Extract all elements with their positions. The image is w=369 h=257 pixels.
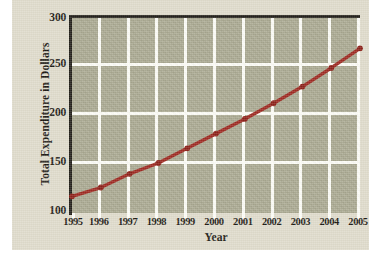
data-point-1999 [184,145,190,151]
series-line-total-expenditure [72,48,360,196]
data-point-2003 [300,84,306,90]
x-axis-title: Year [72,231,360,243]
data-point-2000 [213,131,219,137]
xtick-label-2005: 2005 [341,216,369,227]
data-point-1997 [127,171,133,177]
data-point-2002 [271,100,277,106]
series-markers [69,45,363,199]
chart-paper-background: 300 250 200 150 100 1995 1996 1997 1998 … [12,0,369,250]
data-point-2004 [328,65,334,71]
data-point-1996 [98,185,104,191]
data-point-2005 [357,45,363,51]
y-axis-title: Total Expenditure in Dollars [39,19,51,209]
figure: 300 250 200 150 100 1995 1996 1997 1998 … [0,0,369,257]
data-point-1998 [156,160,162,166]
data-point-1995 [69,193,75,199]
data-point-2001 [242,116,248,122]
data-series-layer [72,17,360,213]
